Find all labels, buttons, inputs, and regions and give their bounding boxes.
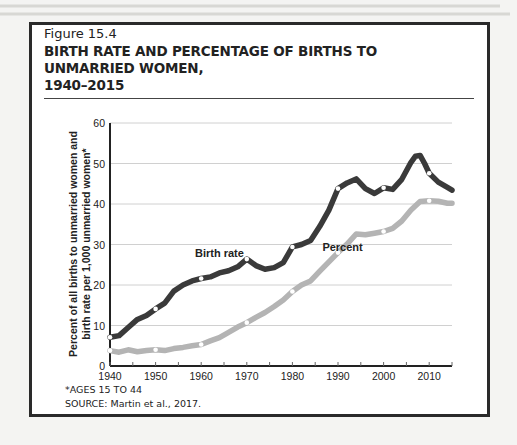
percent-marker xyxy=(153,348,158,353)
x-tick-label: 1980 xyxy=(281,370,305,382)
x-tick-label: 1970 xyxy=(235,370,259,382)
birth-rate-marker xyxy=(427,171,432,176)
percent-marker xyxy=(290,289,295,294)
birth-rate-marker xyxy=(153,307,158,312)
percent-marker xyxy=(381,229,386,234)
y-tick-label: 10 xyxy=(93,320,105,332)
y-tick-label: 20 xyxy=(93,279,105,291)
birth-rate-marker xyxy=(336,186,341,191)
x-tick-label: 1940 xyxy=(98,370,122,382)
percent-marker xyxy=(199,342,204,347)
percent-series-label: Percent xyxy=(322,241,363,253)
x-tick-label: 1990 xyxy=(326,370,350,382)
y-axis-label: Percent of all births to unmarried women… xyxy=(67,131,79,357)
source-note: SOURCE: Martin et al., 2017. xyxy=(65,398,201,409)
y-axis-label-line2: birth rate per 1,000 unmarried women* xyxy=(80,147,92,339)
percent-marker xyxy=(108,348,113,353)
percent-marker xyxy=(245,320,250,325)
x-tick-label: 2010 xyxy=(418,370,442,382)
birth-rate-marker xyxy=(381,186,386,191)
birth-rate-line xyxy=(110,155,452,337)
x-tick-label: 1950 xyxy=(144,370,168,382)
x-tick-label: 2000 xyxy=(372,370,396,382)
x-tick-label: 1960 xyxy=(190,370,214,382)
y-tick-label: 50 xyxy=(93,158,105,170)
line-chart: 0102030405060194019501960197019801990200… xyxy=(0,0,517,445)
birth-rate-marker xyxy=(199,276,204,281)
footnote: *AGES 15 TO 44 xyxy=(65,384,142,395)
y-tick-label: 30 xyxy=(93,239,105,251)
percent-line xyxy=(110,201,452,352)
birth-rate-series-label: Birth rate xyxy=(195,247,244,259)
birth-rate-marker xyxy=(245,257,250,262)
y-tick-label: 60 xyxy=(93,117,105,129)
y-tick-label: 40 xyxy=(93,198,105,210)
birth-rate-marker xyxy=(108,335,113,340)
birth-rate-marker xyxy=(290,245,295,250)
percent-marker xyxy=(427,198,432,203)
